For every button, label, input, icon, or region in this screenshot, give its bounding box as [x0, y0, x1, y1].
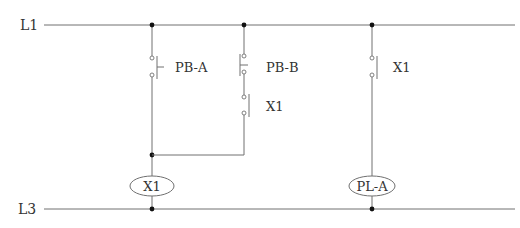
contact-terminal [150, 56, 154, 60]
pb-b-label: PB-B [266, 60, 299, 75]
contact-terminal [370, 73, 374, 77]
contact-terminal [242, 54, 246, 58]
pb-a-label: PB-A [175, 60, 208, 75]
pushbutton-pb-b: PB-B [240, 54, 299, 76]
junction-node [370, 23, 375, 28]
contact-x1-seal: X1 [242, 94, 284, 117]
contact-terminal [242, 95, 246, 99]
contact-x1: X1 [370, 56, 411, 79]
pilot-lamp-pl-a: PL-A [349, 176, 395, 196]
contact-terminal [242, 111, 246, 115]
junction-node [370, 207, 375, 212]
junction-node [150, 207, 155, 212]
rung-1: PB-A X1 [130, 23, 208, 212]
ladder-diagram: L1 L3 PB-A X1 [0, 0, 520, 228]
coil-x1-label: X1 [143, 179, 161, 194]
pilot-lamp-label: PL-A [356, 179, 388, 194]
rail-label-l1: L1 [20, 17, 38, 33]
contact-x1-label: X1 [393, 60, 411, 75]
rung-1-branch: PB-B X1 [152, 23, 299, 155]
contact-terminal [370, 56, 374, 60]
coil-x1: X1 [130, 176, 174, 196]
rung-2: X1 PL-A [349, 23, 411, 212]
contact-x1-seal-label: X1 [266, 99, 284, 114]
junction-node [150, 23, 155, 28]
pushbutton-pb-a: PB-A [150, 56, 208, 79]
rail-label-l3: L3 [18, 201, 36, 217]
contact-terminal [150, 73, 154, 77]
junction-node [242, 23, 247, 28]
ladder-diagram-svg: L1 L3 PB-A X1 [0, 0, 520, 228]
contact-terminal [242, 70, 246, 74]
